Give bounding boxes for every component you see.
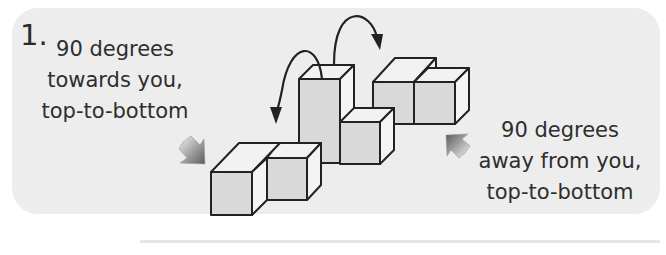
pointer-arrow-down-right-icon xyxy=(179,136,205,164)
arrowhead-down-right-icon xyxy=(371,34,383,50)
middle-front-cube xyxy=(340,108,394,164)
away-from-you-curve-arrow-icon xyxy=(334,16,377,64)
front-left-cube-pair xyxy=(211,143,321,215)
arrowhead-down-icon xyxy=(270,107,282,124)
cube-diagram xyxy=(0,0,666,255)
pointer-arrow-up-left-icon xyxy=(446,134,470,158)
